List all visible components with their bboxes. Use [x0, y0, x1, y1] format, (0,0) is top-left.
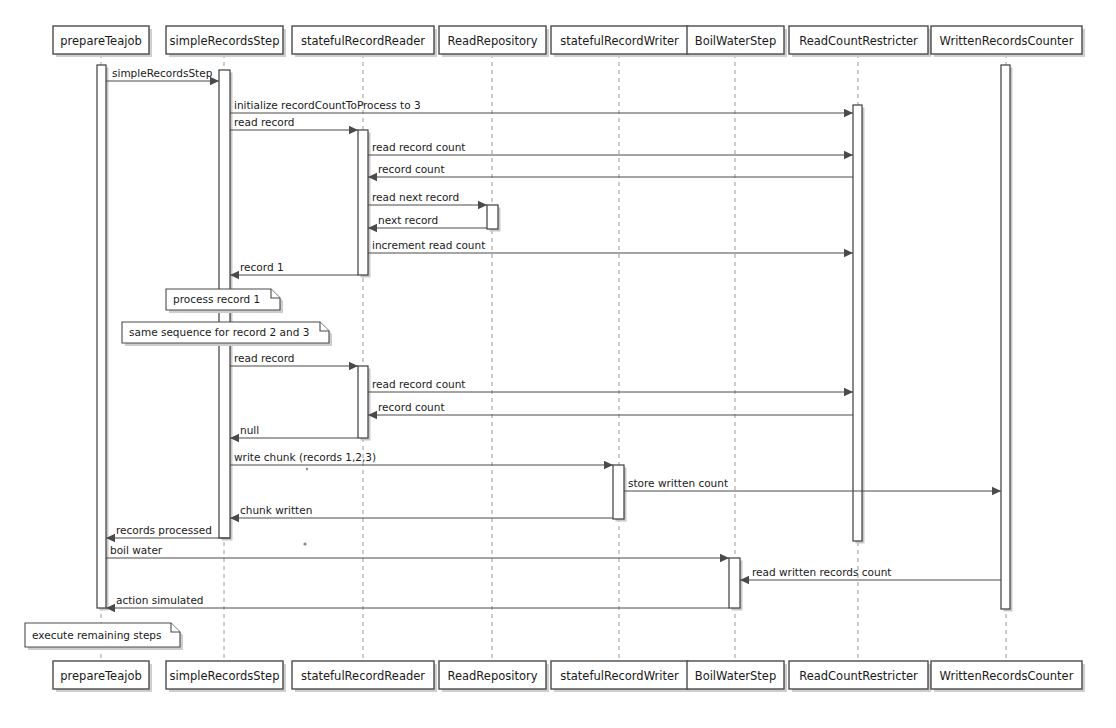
message-arrowhead [349, 362, 358, 370]
participant-footer-simpleRecordsStep[interactable]: simpleRecordsStep [166, 661, 286, 692]
participant-header-ReadCountRestricter[interactable]: ReadCountRestricter [789, 26, 931, 57]
message-label: null [240, 424, 259, 436]
message-label: record 1 [240, 261, 284, 273]
act-prepareTeajob [97, 65, 109, 611]
participant-header-label: prepareTeajob [60, 34, 141, 48]
participant-header-WrittenRecordsCounter[interactable]: WrittenRecordsCounter [931, 26, 1085, 57]
note-label: execute remaining steps [32, 629, 162, 641]
act-reader-1 [358, 130, 371, 278]
message-arrowhead [844, 109, 853, 117]
message-m1: simpleRecordsStep [106, 67, 219, 86]
message-label: write chunk (records 1,2,3) [234, 451, 376, 463]
participant-header-label: BoilWaterStep [695, 34, 777, 48]
message-m13: null [230, 424, 358, 443]
message-label: increment read count [372, 239, 485, 251]
participant-footer-label: prepareTeajob [60, 669, 141, 683]
participant-header-ReadRepository[interactable]: ReadRepository [439, 26, 549, 57]
participant-footer-label: statefulRecordWriter [560, 669, 679, 683]
footer-participant-group: prepareTeajobsimpleRecordsStepstatefulRe… [53, 661, 1085, 692]
message-m17: records processed [106, 524, 230, 543]
act-repository-1 [487, 205, 501, 232]
speck-2 [306, 468, 308, 470]
message-arrowhead [844, 388, 853, 396]
participant-footer-label: ReadRepository [447, 669, 537, 683]
act-writer-1 [613, 465, 627, 522]
participant-footer-label: BoilWaterStep [695, 669, 777, 683]
message-m7: next record [368, 214, 487, 233]
message-m3: read record [230, 116, 358, 135]
participant-footer-prepareTeajob[interactable]: prepareTeajob [53, 661, 152, 692]
participant-footer-ReadRepository[interactable]: ReadRepository [439, 661, 549, 692]
message-label: read record count [372, 378, 466, 390]
message-label: read written records count [752, 566, 891, 578]
header-participant-group: prepareTeajobsimpleRecordsStepstatefulRe… [53, 26, 1085, 57]
sequence-diagram-svg: simpleRecordsStepinitialize recordCountT… [0, 0, 1116, 728]
participant-footer-label: ReadCountRestricter [799, 669, 918, 683]
message-m5: record count [368, 163, 853, 182]
message-label: simpleRecordsStep [112, 67, 213, 79]
message-m9: record 1 [230, 261, 358, 280]
participant-footer-label: simpleRecordsStep [170, 669, 280, 683]
message-m20: action simulated [106, 594, 729, 613]
sequence-diagram-canvas: simpleRecordsStepinitialize recordCountT… [0, 0, 1116, 728]
message-label: next record [378, 214, 438, 226]
message-label: read record [234, 352, 295, 364]
message-arrowhead [349, 126, 358, 134]
message-m10: read record [230, 352, 358, 371]
message-label: action simulated [116, 594, 204, 606]
message-m19: read written records count [740, 566, 1001, 585]
message-m15: store written count [624, 477, 1001, 496]
note-label: process record 1 [173, 293, 260, 305]
message-label: read record [234, 116, 295, 128]
participant-footer-statefulRecordWriter[interactable]: statefulRecordWriter [551, 661, 691, 692]
participant-footer-label: WrittenRecordsCounter [940, 669, 1074, 683]
participant-footer-BoilWaterStep[interactable]: BoilWaterStep [687, 661, 787, 692]
participant-footer-ReadCountRestricter[interactable]: ReadCountRestricter [789, 661, 931, 692]
message-m18: boil water [106, 544, 729, 563]
participant-footer-statefulRecordReader[interactable]: statefulRecordReader [292, 661, 437, 692]
message-label: record count [378, 401, 445, 413]
participant-header-label: ReadCountRestricter [799, 34, 918, 48]
speck-1 [303, 542, 306, 545]
message-arrowhead [992, 487, 1001, 495]
participant-header-statefulRecordWriter[interactable]: statefulRecordWriter [551, 26, 691, 57]
participant-footer-label: statefulRecordReader [301, 669, 425, 683]
message-label: store written count [628, 477, 728, 489]
participant-header-prepareTeajob[interactable]: prepareTeajob [53, 26, 152, 57]
message-label: record count [378, 163, 445, 175]
message-arrowhead [720, 554, 729, 562]
message-arrowhead [478, 201, 487, 209]
participant-header-label: statefulRecordWriter [560, 34, 679, 48]
note-2: same sequence for record 2 and 3 [122, 322, 332, 346]
act-readcount-1 [853, 105, 865, 544]
message-m6: read next record [368, 191, 487, 210]
message-label: read record count [372, 141, 466, 153]
note-1: process record 1 [166, 289, 283, 313]
message-label: read next record [372, 191, 459, 203]
message-m11: read record count [368, 378, 853, 397]
participant-footer-WrittenRecordsCounter[interactable]: WrittenRecordsCounter [931, 661, 1085, 692]
message-arrowhead [844, 151, 853, 159]
message-label: records processed [116, 524, 212, 536]
message-m12: record count [368, 401, 853, 420]
note-label: same sequence for record 2 and 3 [129, 326, 309, 338]
message-arrowhead [844, 249, 853, 257]
act-reader-2 [358, 366, 371, 441]
message-m8: increment read count [368, 239, 853, 258]
participant-header-label: ReadRepository [447, 34, 537, 48]
note-fold-corner-icon [271, 289, 280, 298]
participant-header-label: statefulRecordReader [301, 34, 425, 48]
message-label: initialize recordCountToProcess to 3 [234, 99, 421, 111]
message-m2: initialize recordCountToProcess to 3 [230, 99, 853, 118]
participant-header-simpleRecordsStep[interactable]: simpleRecordsStep [166, 26, 286, 57]
act-writtencounter-1 [1001, 65, 1013, 612]
message-m4: read record count [368, 141, 853, 160]
message-arrowhead [604, 461, 613, 469]
participant-header-statefulRecordReader[interactable]: statefulRecordReader [292, 26, 437, 57]
participant-header-BoilWaterStep[interactable]: BoilWaterStep [687, 26, 787, 57]
message-m14: write chunk (records 1,2,3) [230, 451, 613, 470]
participant-header-label: WrittenRecordsCounter [940, 34, 1074, 48]
participant-header-label: simpleRecordsStep [170, 34, 280, 48]
note-3: execute remaining steps [25, 623, 183, 650]
note-fold-corner-icon [320, 322, 329, 331]
